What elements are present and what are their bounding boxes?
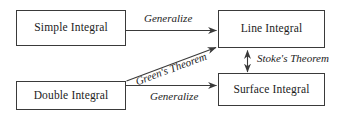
node-line-integral[interactable]: Line Integral <box>218 10 325 48</box>
node-double-integral[interactable]: Double Integral <box>16 81 126 110</box>
node-surface-integral[interactable]: Surface Integral <box>218 73 325 106</box>
node-simple-integral[interactable]: Simple Integral <box>16 10 126 46</box>
node-double-integral-label: Double Integral <box>34 90 109 102</box>
node-line-integral-label: Line Integral <box>241 23 303 35</box>
edge-label-stokes-theorem: Stoke's Theorem <box>257 53 329 64</box>
edge-label-generalize-top: Generalize <box>144 13 192 24</box>
integral-theorems-diagram: Simple Integral Line Integral Double Int… <box>0 0 357 117</box>
node-simple-integral-label: Simple Integral <box>34 22 107 34</box>
node-surface-integral-label: Surface Integral <box>233 84 309 96</box>
edge-label-generalize-bottom: Generalize <box>150 91 198 102</box>
